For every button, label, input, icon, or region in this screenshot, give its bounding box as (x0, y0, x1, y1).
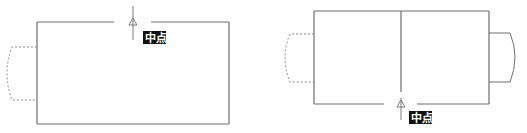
right-snap-tooltip: 中点 (411, 111, 433, 125)
right-ghost-tab (285, 34, 314, 82)
left-figure: 中点 (7, 6, 229, 124)
right-solid-tab (489, 33, 515, 82)
left-snap-tooltip: 中点 (145, 31, 167, 45)
right-figure: 中点 (285, 11, 515, 125)
left-ghost-tab (7, 47, 37, 100)
diagram-canvas: 中点 中点 (0, 0, 527, 133)
